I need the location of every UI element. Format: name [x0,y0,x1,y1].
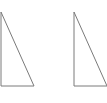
diagram-canvas [0,0,107,103]
right-triangle-right [74,12,107,86]
right-triangle-left [1,12,34,86]
